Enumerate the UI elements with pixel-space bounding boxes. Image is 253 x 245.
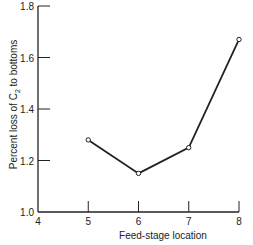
data-point-marker: [136, 171, 140, 175]
y-tick-label: 1.8: [20, 1, 34, 12]
data-point-marker: [187, 145, 191, 149]
line-chart: 1.01.21.41.61.845678: [0, 0, 253, 245]
x-tick-label: 5: [85, 216, 91, 227]
y-tick-label: 1.6: [20, 53, 34, 64]
x-tick-label: 6: [136, 216, 142, 227]
data-line: [88, 39, 239, 173]
y-tick-label: 1.4: [20, 104, 34, 115]
y-tick-label: 1.2: [20, 156, 34, 167]
x-tick-label: 4: [35, 216, 41, 227]
x-tick-label: 8: [236, 216, 242, 227]
x-tick-label: 7: [186, 216, 192, 227]
data-point-marker: [86, 138, 90, 142]
x-axis-label: Feed-stage location: [88, 230, 238, 241]
data-point-marker: [237, 37, 241, 41]
y-tick-label: 1.0: [20, 207, 34, 218]
y-axis-label: Percent loss of C2 to bottoms: [8, 15, 21, 195]
